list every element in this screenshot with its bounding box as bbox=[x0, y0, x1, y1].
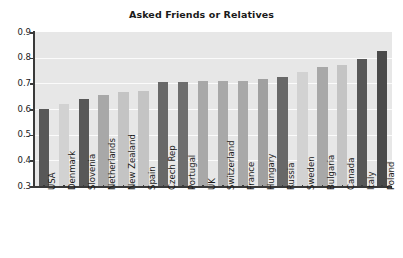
x-axis-tick-label: New Zealand bbox=[127, 134, 137, 190]
x-axis-tick-mark bbox=[302, 185, 304, 188]
x-axis-tick-mark bbox=[63, 185, 65, 188]
x-axis-tick-label: UK bbox=[207, 178, 217, 190]
x-axis-tick-mark bbox=[322, 185, 324, 188]
y-axis-tick-mark bbox=[30, 32, 33, 34]
x-axis-tick-label: Switzerland bbox=[226, 140, 236, 190]
bar bbox=[357, 59, 367, 186]
bar-chart-figure: Asked Friends or Relatives 0.30.40.50.60… bbox=[0, 0, 403, 258]
x-axis-tick-mark bbox=[361, 185, 363, 188]
y-axis-line bbox=[33, 31, 35, 187]
x-axis-tick-mark bbox=[43, 185, 45, 188]
x-axis-tick-labels: USADenmarkSloveniaNetherlandsNew Zealand… bbox=[34, 188, 392, 258]
x-axis-tick-label: Canada bbox=[346, 158, 356, 190]
x-axis-tick-label: Russia bbox=[286, 163, 296, 190]
x-axis-tick-label: Poland bbox=[386, 162, 396, 190]
y-axis-tick-mark bbox=[30, 160, 33, 162]
x-axis-tick-mark bbox=[83, 185, 85, 188]
x-axis-tick-mark bbox=[202, 185, 204, 188]
y-axis-tick-label: 0.3 bbox=[3, 181, 31, 191]
x-axis-tick-label: Denmark bbox=[67, 151, 77, 190]
x-axis-tick-mark bbox=[342, 185, 344, 188]
y-axis-tick-mark bbox=[30, 83, 33, 85]
x-axis-tick-mark bbox=[182, 185, 184, 188]
x-axis-tick-label: France bbox=[246, 162, 256, 190]
x-axis-tick-mark bbox=[163, 185, 165, 188]
x-axis-tick-label: USA bbox=[47, 172, 57, 190]
x-axis-tick-mark bbox=[381, 185, 383, 188]
x-axis-tick-mark bbox=[103, 185, 105, 188]
x-axis-tick-label: Italy bbox=[366, 172, 376, 190]
y-axis-tick-mark bbox=[30, 109, 33, 111]
x-axis-tick-label: Czech Rep bbox=[167, 145, 177, 190]
y-axis-tick-labels: 0.30.40.50.60.70.80.9 bbox=[0, 0, 31, 258]
x-axis-tick-label: Hungary bbox=[266, 154, 276, 190]
y-axis-tick-label: 0.5 bbox=[3, 129, 31, 139]
chart-title: Asked Friends or Relatives bbox=[0, 9, 403, 20]
y-axis-tick-label: 0.4 bbox=[3, 155, 31, 165]
x-axis-tick-label: Netherlands bbox=[107, 138, 117, 190]
bar bbox=[198, 81, 208, 186]
y-axis-tick-mark bbox=[30, 135, 33, 137]
x-axis-tick-mark bbox=[222, 185, 224, 188]
x-axis-tick-label: Spain bbox=[147, 166, 157, 190]
y-axis-tick-mark bbox=[30, 186, 33, 188]
x-axis-tick-label: Sweden bbox=[306, 156, 316, 190]
x-axis-tick-mark bbox=[282, 185, 284, 188]
y-axis-tick-label: 0.6 bbox=[3, 104, 31, 114]
y-axis-tick-label: 0.7 bbox=[3, 78, 31, 88]
y-axis-tick-mark bbox=[30, 58, 33, 60]
x-axis-tick-mark bbox=[123, 185, 125, 188]
x-axis-tick-label: Portugal bbox=[187, 155, 197, 190]
x-axis-tick-mark bbox=[143, 185, 145, 188]
x-axis-tick-label: Bulgaria bbox=[326, 155, 336, 190]
y-axis-tick-label: 0.8 bbox=[3, 52, 31, 62]
x-axis-tick-mark bbox=[262, 185, 264, 188]
y-axis-tick-label: 0.9 bbox=[3, 27, 31, 37]
x-axis-tick-mark bbox=[242, 185, 244, 188]
x-axis-tick-label: Slovenia bbox=[87, 154, 97, 190]
